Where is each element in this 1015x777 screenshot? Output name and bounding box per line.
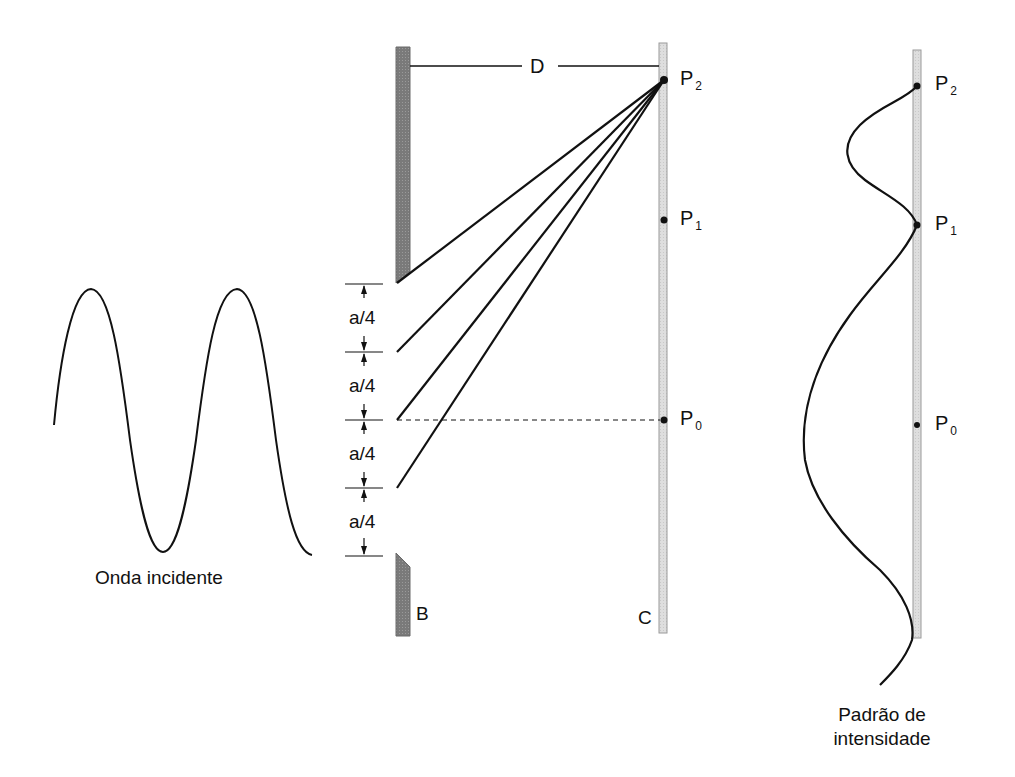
intensity-p2-label: P2 [935, 73, 957, 97]
barrier-label: B [416, 604, 429, 623]
incident-wave-caption: Onda incidente [95, 568, 223, 587]
intensity-caption-line1: Padrão de [812, 703, 952, 727]
point-p2-marker [660, 76, 668, 84]
incident-wave [54, 289, 312, 555]
point-p0-marker [661, 417, 668, 424]
screen-label: C [638, 608, 652, 627]
intensity-p1-label: P1 [935, 213, 957, 237]
intensity-pattern-caption: Padrão de intensidade [812, 703, 952, 751]
single-slit-diffraction-diagram [0, 0, 1015, 777]
barrier-upper [396, 47, 410, 283]
intensity-curve [804, 86, 917, 685]
distance-label: D [530, 56, 544, 76]
intensity-p0-label: P0 [935, 413, 957, 437]
slit-segment-label-1: a/4 [349, 308, 375, 327]
rays-to-p2 [397, 80, 664, 488]
slit-segment-label-3: a/4 [349, 444, 375, 463]
intensity-caption-line2: intensidade [812, 727, 952, 751]
screen-c [659, 43, 667, 633]
intensity-p1-marker [914, 222, 921, 229]
intensity-screen [913, 50, 921, 638]
barrier-lower [396, 553, 410, 636]
intensity-p0-marker [914, 422, 920, 428]
point-p1-label: P1 [680, 208, 702, 232]
point-p0-label: P0 [680, 408, 702, 432]
point-p2-label: P2 [680, 68, 702, 92]
point-p1-marker [661, 217, 668, 224]
slit-segment-label-4: a/4 [349, 512, 375, 531]
slit-segment-label-2: a/4 [349, 376, 375, 395]
intensity-p2-marker [914, 83, 921, 90]
